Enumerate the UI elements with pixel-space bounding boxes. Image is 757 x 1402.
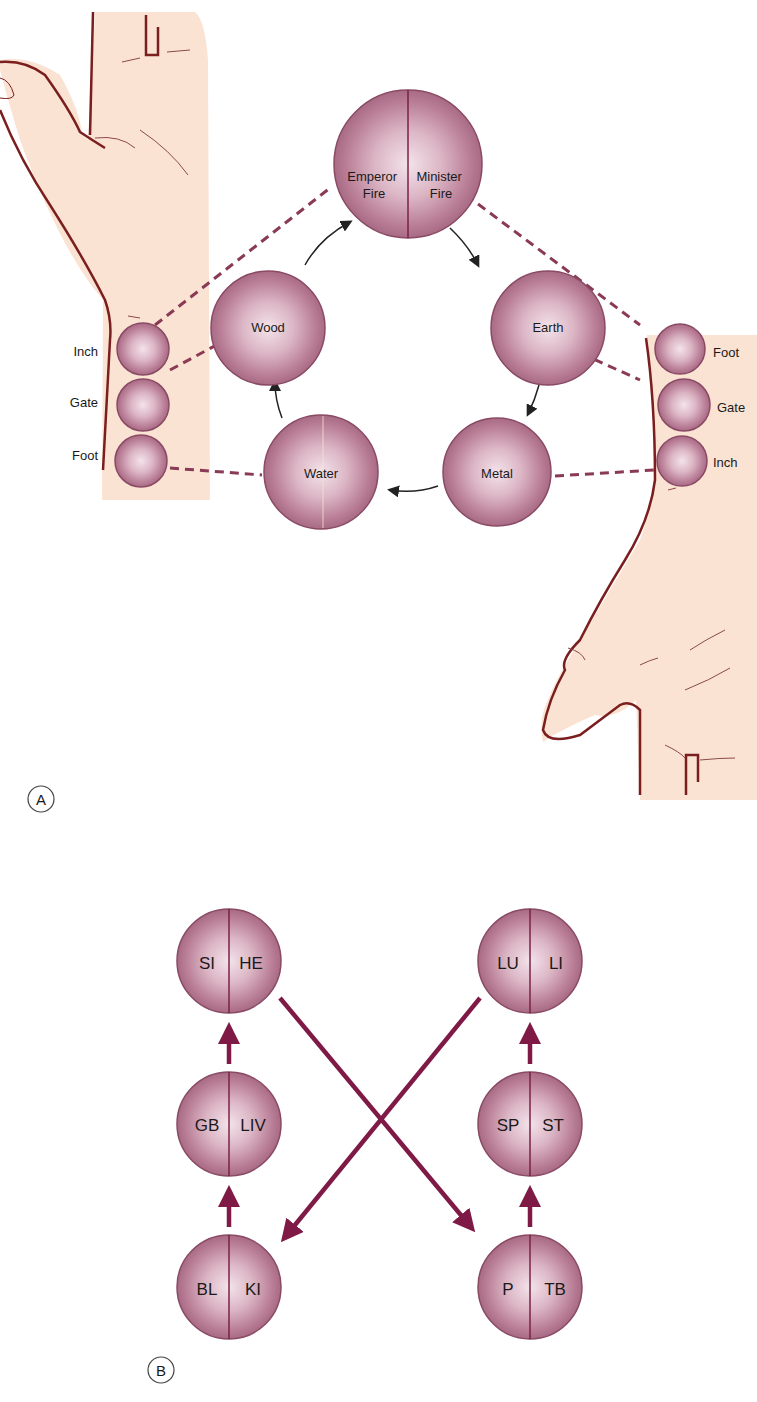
right-gate-label: Gate bbox=[717, 400, 745, 415]
fire-circle: Emperor Fire Minister Fire bbox=[334, 90, 482, 238]
right-foot-label: Foot bbox=[713, 345, 739, 360]
right-wrist-pulses: Foot Gate Inch bbox=[655, 324, 745, 486]
organ-label: KI bbox=[245, 1280, 261, 1299]
organ-pair-sp-st: SP ST bbox=[478, 1072, 582, 1176]
organ-label: SI bbox=[199, 954, 215, 973]
left-inch-label: Inch bbox=[73, 344, 98, 359]
metal-label: Metal bbox=[481, 466, 513, 481]
organ-label: P bbox=[502, 1280, 513, 1299]
panel-b-marker: B bbox=[148, 1357, 174, 1383]
wood-label: Wood bbox=[251, 320, 285, 335]
organ-pair-si-he: SI HE bbox=[177, 909, 281, 1013]
organ-label: LU bbox=[497, 954, 519, 973]
crossing-arrows bbox=[280, 998, 480, 1236]
organ-label: BL bbox=[197, 1280, 218, 1299]
organ-label: TB bbox=[544, 1280, 566, 1299]
organ-pair-gb-liv: GB LIV bbox=[177, 1072, 281, 1176]
organ-pair-p-tb: P TB bbox=[478, 1235, 582, 1339]
left-wrist-pulses: Inch Gate Foot bbox=[70, 323, 169, 487]
panel-b: SI HE GB LIV BL KI LU LI SP ST bbox=[148, 909, 582, 1383]
panel-a-label: A bbox=[36, 791, 46, 808]
right-inch-label: Inch bbox=[713, 455, 738, 470]
earth-circle: Earth bbox=[491, 271, 605, 385]
organ-label: GB bbox=[195, 1116, 220, 1135]
left-hand-illustration bbox=[0, 12, 210, 500]
water-circle: Water bbox=[264, 415, 378, 529]
organ-label: ST bbox=[542, 1116, 564, 1135]
earth-label: Earth bbox=[532, 320, 563, 335]
organ-label: HE bbox=[239, 954, 263, 973]
organ-pair-lu-li: LU LI bbox=[478, 909, 582, 1013]
left-foot-label: Foot bbox=[72, 448, 98, 463]
wood-circle: Wood bbox=[211, 271, 325, 385]
water-label: Water bbox=[304, 466, 339, 481]
organ-label: SP bbox=[497, 1116, 520, 1135]
organ-pair-bl-ki: BL KI bbox=[177, 1235, 281, 1339]
panel-b-label: B bbox=[156, 1362, 166, 1379]
organ-label: LIV bbox=[240, 1116, 266, 1135]
panel-a: Emperor Fire Minister Fire Wood Earth Wa… bbox=[0, 12, 757, 812]
pulse-diagram: Emperor Fire Minister Fire Wood Earth Wa… bbox=[0, 0, 757, 1402]
organ-label: LI bbox=[549, 954, 563, 973]
panel-a-marker: A bbox=[28, 786, 54, 812]
left-gate-label: Gate bbox=[70, 395, 98, 410]
metal-circle: Metal bbox=[443, 418, 551, 526]
